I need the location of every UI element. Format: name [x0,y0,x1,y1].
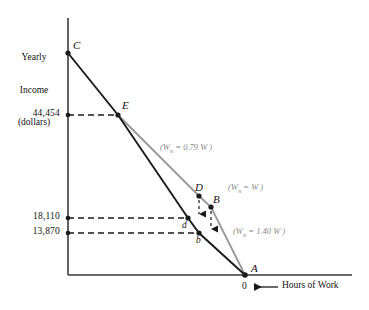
y-axis-title-line-2: Income [4,85,64,96]
reference-line-18110 [66,216,187,221]
annotation-equal-rest: = W ) [241,182,263,192]
y-axis-title-line-1: Yearly [4,52,64,63]
annotation-079-rest: = 0.79 W ) [173,142,212,152]
point-marker-D [196,193,201,198]
point-marker-A [242,272,248,278]
annotation-079-prefix: (W [160,142,170,152]
reference-line-44454 [66,113,116,118]
annotation-equal-prefix: (W [228,182,238,192]
point-marker-C [65,50,70,55]
y-axis-title-line-3: (dollars) [4,117,64,128]
annotation-net-wage-equal: (Wn = W ) [228,183,263,194]
point-label-b: b [196,235,201,246]
y-tick-label-13870: 13,870 [2,226,60,237]
x-axis-title: Hours of Work [282,280,339,291]
point-label-E: E [122,99,129,112]
point-label-A: A [251,262,258,275]
point-label-B: B [213,193,220,206]
annotation-140-prefix: (W [233,226,243,236]
y-axis-title: Yearly Income (dollars) [4,30,64,150]
y-tick-label-44454: 44,454 [2,108,60,119]
annotation-140-rest: = 1.40 W ) [246,226,285,236]
x-axis-origin-label: 0 [242,281,247,292]
point-label-C: C [73,39,80,52]
point-marker-E [115,112,120,117]
annotation-net-wage-140: (Wn = 1.40 W ) [233,227,285,238]
reference-line-13870 [66,231,198,236]
point-label-D: D [195,181,203,194]
budget-constraint-figure: Yearly Income (dollars) 44,454 18,110 13… [0,0,369,310]
y-tick-label-18110: 18,110 [2,211,60,222]
annotation-net-wage-079: (Wn = 0.79 W ) [160,143,212,154]
point-label-d: d [182,220,187,231]
net-budget-line [118,115,245,275]
gross-budget-line [68,53,245,275]
